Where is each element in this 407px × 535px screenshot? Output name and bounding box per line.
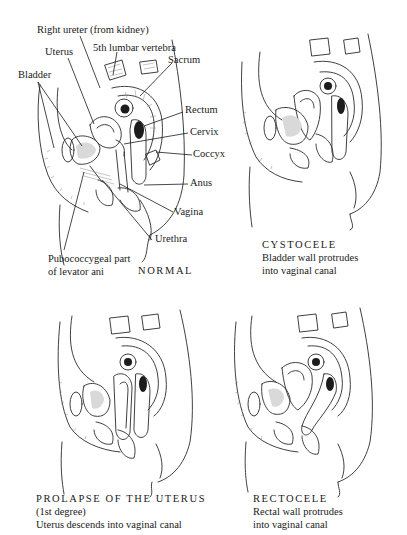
caption-prolapse-line2: Uterus descends into vaginal canal [36,518,206,531]
caption-rectocele-line1: Rectal wall protrudes [253,505,343,518]
caption-prolapse-line1: (1st degree) [36,505,206,518]
label-uterus: Uterus [45,46,73,58]
label-bladder: Bladder [18,69,51,81]
label-rectum: Rectum [185,104,218,116]
caption-cystocele-title: CYSTOCELE [262,238,358,251]
label-sacrum: Sacrum [168,54,200,66]
label-coccyx: Coccyx [193,148,225,160]
prolapse-drawing [58,310,192,497]
caption-rectocele-line2: into vaginal canal [253,518,343,531]
caption-normal: NORMAL [138,264,193,277]
label-pubococcygeal-line2: of levator ani [48,265,131,278]
leader-lines [38,36,192,250]
label-5th-lumbar-vertebra: 5th lumbar vertebra [93,42,176,54]
label-pubococcygeal-line1: Pubococcygeal part [48,252,131,265]
label-vagina: Vagina [174,206,203,218]
cystocele-drawing [242,34,382,230]
label-anus: Anus [190,177,212,189]
label-cervix: Cervix [190,126,219,138]
rectocele-drawing [235,308,373,497]
caption-cystocele-line2: into vaginal canal [262,264,358,277]
caption-normal-title: NORMAL [138,265,193,276]
caption-rectocele: RECTOCELE Rectal wall protrudes into vag… [253,492,343,531]
caption-rectocele-title: RECTOCELE [253,492,343,505]
caption-cystocele-line1: Bladder wall protrudes [262,251,358,264]
caption-cystocele: CYSTOCELE Bladder wall protrudes into va… [262,238,358,277]
caption-prolapse: PROLAPSE OF THE UTERUS (1st degree) Uter… [36,492,206,531]
caption-prolapse-title: PROLAPSE OF THE UTERUS [36,492,206,505]
label-right-ureter: Right ureter (from kidney) [37,24,149,36]
label-urethra: Urethra [155,233,187,245]
label-pubococcygeal: Pubococcygeal part of levator ani [48,252,131,278]
